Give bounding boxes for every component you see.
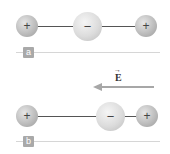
- divider-a: [16, 52, 160, 53]
- negative-charge-b: −: [96, 102, 125, 131]
- panel-label-a: a: [23, 47, 34, 58]
- minus-icon: −: [84, 19, 92, 34]
- plus-icon: +: [143, 109, 150, 123]
- positive-charge-b-right: +: [136, 105, 158, 127]
- field-arrow-shaft: [101, 86, 154, 88]
- plus-icon: +: [23, 109, 30, 123]
- minus-icon: −: [107, 109, 115, 124]
- panel-label-b: b: [23, 136, 34, 147]
- field-label: E: [115, 72, 122, 83]
- plus-icon: +: [142, 19, 149, 33]
- rod-b: [27, 116, 147, 117]
- positive-charge-b-left: +: [16, 105, 38, 127]
- negative-charge-a: −: [73, 12, 102, 41]
- positive-charge-a-left: +: [16, 15, 38, 37]
- positive-charge-a-right: +: [135, 15, 157, 37]
- plus-icon: +: [23, 19, 30, 33]
- divider-b: [16, 141, 160, 142]
